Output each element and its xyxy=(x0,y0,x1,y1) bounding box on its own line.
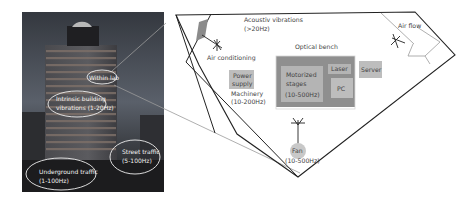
intrinsic-vibrations-label-2: vibrations (1-20Hz) xyxy=(56,104,114,111)
underground-traffic-label-1: Underground traffic xyxy=(39,168,98,176)
intrinsic-vibrations-label-1: Intrinsic building xyxy=(56,95,106,103)
motorized-stages-label-3: (10-500Hz) xyxy=(285,91,320,98)
wall-left xyxy=(176,15,215,133)
motorized-stages-label-2: stages xyxy=(286,80,306,88)
server-label: Server xyxy=(361,66,382,73)
optical-bench-label: Optical bench xyxy=(295,43,338,51)
building-photo xyxy=(22,12,164,192)
acoustic-vibrations-label-2: (>20Hz) xyxy=(244,25,270,32)
laser-label: Laser xyxy=(331,65,348,72)
air-flow-fan-icon xyxy=(391,34,405,48)
within-lab-label: Within lab xyxy=(89,74,119,81)
machinery-label-1: Machinery xyxy=(231,90,263,98)
lab-floor-plan: Acoustiv vibrations (>20Hz) Air conditio… xyxy=(176,12,455,177)
pc-label: PC xyxy=(337,85,345,92)
street-traffic-label-1: Street traffic xyxy=(122,148,160,155)
fan-label: Fan xyxy=(292,147,303,154)
vibration-sources-figure: Within lab Intrinsic building vibrations… xyxy=(0,0,475,198)
acoustic-vibrations-label-1: Acoustiv vibrations xyxy=(244,16,303,23)
air-flow-vent xyxy=(381,13,440,64)
machinery-label-2: (10-200Hz) xyxy=(231,98,266,105)
air-conditioning-icon xyxy=(202,35,222,51)
street-traffic-label-2: (5-100Hz) xyxy=(122,157,152,164)
fan-frequency-label: (10-500Hz) xyxy=(285,157,320,164)
underground-traffic-label-2: (1-100Hz) xyxy=(39,177,69,184)
rooftop-block xyxy=(67,26,99,46)
power-supply-label-1: Power xyxy=(233,72,252,79)
power-supply-label-2: supply xyxy=(232,80,253,88)
air-flow-label: Air flow xyxy=(398,22,421,29)
motorized-stages-label-1: Motorized xyxy=(286,71,317,78)
air-conditioning-label: Air conditioning xyxy=(207,54,256,62)
